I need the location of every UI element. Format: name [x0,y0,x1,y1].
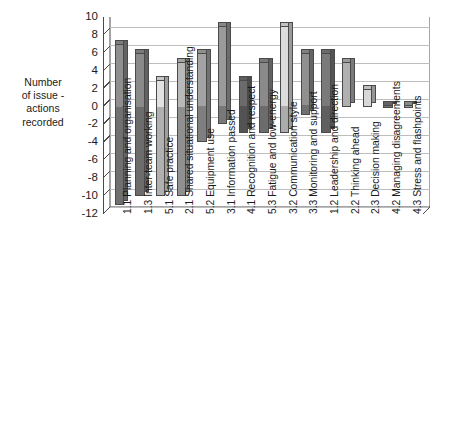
x-axis-label-10: 3.3 Monitoring and support [309,92,319,215]
bar-side [351,58,355,103]
y-axis-tick-neg10: -10 [81,190,98,202]
bar-13 [363,89,373,107]
y-axis-tick-2: 2 [92,83,98,95]
y-axis-tick-labels: 1086420-2-4-6-8-10-12 [60,17,98,214]
y-axis-tick-neg2: -2 [88,119,98,131]
bar-12 [342,62,352,107]
x-axis-label-12: 2.2 Thinking ahead [351,127,361,214]
bar-side [227,22,231,121]
x-axis-label-2: 1.3 Inter-team working [144,112,154,214]
bar-face [363,89,373,107]
y-axis-tick-0: 0 [92,101,98,113]
x-axis-label-6: 3.1 Information passed [227,109,237,214]
x-axis-label-11: 1.2 Leadership and direction [330,84,340,214]
x-axis-label-1: 1.1 Planning and organisation [123,78,133,214]
bar-chart: Number of issue - actions recorded 10864… [0,0,464,426]
x-axis-label-13: 2.3 Decision making [371,121,381,214]
x-axis-label-15: 4.3 Stress and flashpoints [413,96,423,215]
bar-face [342,62,352,107]
x-axis-label-5: 5.2 Equipment use [206,128,216,214]
x-axis-label-14: 4.2 Managing disagreements [392,81,402,214]
x-axis-label-7: 4.1 Recognition and respect [247,86,257,214]
y-axis-tick-neg8: -8 [88,172,98,184]
y-axis-tick-neg6: -6 [88,155,98,167]
y-axis-tick-neg12: -12 [81,208,98,220]
y-axis-tick-neg4: -4 [88,137,98,149]
bar-side [372,85,376,103]
x-axis-label-8: 5.3 Fatigue and low-energy [268,89,278,214]
bar-side [207,49,211,139]
x-axis-label-4: 2.1 Shared situational understanding [185,46,195,214]
x-axis-label-3: 5.1 Safe practice [165,137,175,214]
y-axis-tick-8: 8 [92,29,98,41]
x-axis-label-9: 3.2 Communication style [289,101,299,214]
x-axis-category-labels: 1.1 Planning and organisation1.3 Inter-t… [103,214,430,414]
y-axis-tick-6: 6 [92,47,98,59]
y-axis-tick-4: 4 [92,65,98,77]
y-axis-tick-10: 10 [85,11,98,23]
